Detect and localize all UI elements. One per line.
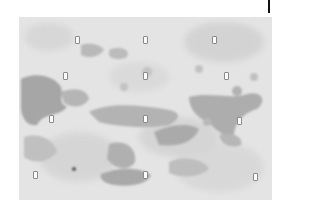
marker-rectangle — [143, 115, 148, 123]
marker-rectangle — [143, 36, 148, 44]
marker-rectangle — [63, 72, 68, 80]
marker-rectangle — [253, 173, 258, 181]
marker-rectangle — [224, 72, 229, 80]
marker-rectangle — [33, 171, 38, 179]
marker-rectangle — [143, 171, 148, 179]
marker-rectangle — [75, 36, 80, 44]
marker-rectangle — [237, 117, 242, 125]
marker-rectangle — [49, 115, 54, 123]
marker-rectangle — [212, 36, 217, 44]
marker-rectangle — [143, 72, 148, 80]
vertical-bar — [268, 0, 270, 13]
